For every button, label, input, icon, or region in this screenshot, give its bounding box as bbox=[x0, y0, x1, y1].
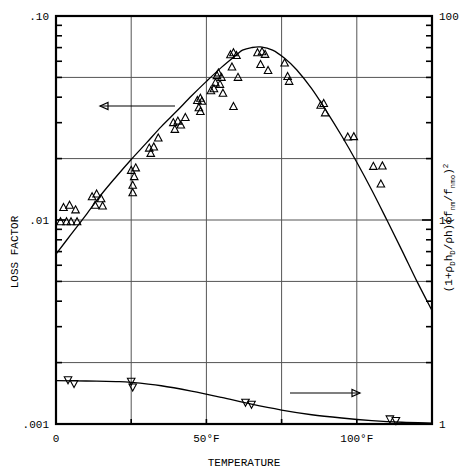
data-point-triangle-up bbox=[73, 218, 81, 225]
rlbl-p9: nmo bbox=[449, 174, 457, 188]
data-point-triangle-up bbox=[234, 73, 242, 80]
data-point-triangle-up bbox=[93, 190, 101, 197]
horizontal-gridlines bbox=[56, 77, 432, 362]
data-point-triangle-up bbox=[377, 180, 385, 187]
data-point-triangle-down bbox=[129, 384, 137, 391]
left-axis-tick-labels: .10.01.001 bbox=[23, 11, 50, 431]
data-point-triangle-down bbox=[70, 381, 78, 388]
rlbl-p1: (1+ bbox=[443, 272, 455, 292]
y-left-tick-label: .10 bbox=[29, 11, 49, 23]
svg-text:(1+ρDhD/ρh)(fnm/fnmo)2: (1+ρDhD/ρh)(fnm/fnmo)2 bbox=[442, 164, 457, 293]
y-right-tick-label: 1 bbox=[439, 419, 446, 431]
y-right-tick-label: 100 bbox=[439, 11, 459, 23]
data-point-triangle-up bbox=[99, 202, 107, 209]
data-markers-loss-factor bbox=[57, 48, 386, 225]
x-axis-title: TEMPERATURE bbox=[208, 457, 281, 469]
data-point-triangle-up bbox=[66, 201, 74, 208]
data-point-triangle-up bbox=[285, 77, 293, 84]
data-markers-correction-factor bbox=[64, 377, 399, 425]
x-tick-label: 100°F bbox=[340, 433, 373, 445]
y-left-tick-label: .001 bbox=[23, 419, 50, 431]
loss-factor-vs-temperature-chart: .10.01.001 100101 050°F100°F LOSS FACTOR… bbox=[0, 0, 461, 474]
x-tick-label: 50°F bbox=[193, 433, 219, 445]
curve-1 bbox=[56, 381, 432, 423]
x-tick-label: 0 bbox=[53, 433, 60, 445]
left-axis-arrow bbox=[100, 103, 175, 110]
curve-0 bbox=[56, 47, 432, 311]
data-point-triangle-up bbox=[132, 164, 140, 171]
y-left-tick-label: .01 bbox=[29, 215, 49, 227]
data-point-triangle-up bbox=[264, 66, 272, 73]
data-point-triangle-up bbox=[370, 162, 378, 169]
rlbl-p8: /f bbox=[443, 188, 455, 201]
bottom-axis-tick-labels: 050°F100°F bbox=[53, 433, 374, 445]
data-point-triangle-up bbox=[182, 113, 190, 120]
data-point-triangle-up bbox=[219, 89, 227, 96]
data-point-triangle-up bbox=[228, 63, 236, 70]
data-point-triangle-up bbox=[129, 189, 137, 196]
rlbl-p11: 2 bbox=[442, 164, 450, 169]
data-point-triangle-up bbox=[129, 181, 137, 188]
data-point-triangle-up bbox=[257, 60, 265, 67]
data-point-triangle-up bbox=[155, 134, 163, 141]
right-axis-arrow bbox=[290, 390, 360, 397]
rlbl-p6: h)(f bbox=[443, 211, 455, 237]
y-axis-right-title: (1+ρDhD/ρh)(fnm/fnmo)2 bbox=[442, 164, 457, 293]
figure-container: .10.01.001 100101 050°F100°F LOSS FACTOR… bbox=[0, 0, 461, 474]
data-point-triangle-up bbox=[379, 162, 387, 169]
fitted-curves bbox=[56, 47, 432, 423]
y-axis-left-title: LOSS FACTOR bbox=[9, 215, 21, 288]
data-point-triangle-up bbox=[230, 102, 238, 109]
